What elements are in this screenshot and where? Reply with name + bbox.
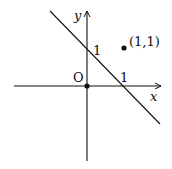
coordinate-diagram: y x O 1 1 (1,1) [0,0,172,169]
y-axis-label: y [73,8,82,23]
point-1-1 [121,45,126,50]
line-x-plus-y-equals-1 [50,11,160,124]
point-1-1-label: (1,1) [129,34,160,49]
x-axis-label: x [150,89,158,104]
origin-point [84,83,89,88]
y-intercept-label: 1 [93,43,101,58]
origin-label: O [73,70,84,85]
x-intercept-label: 1 [120,70,128,85]
